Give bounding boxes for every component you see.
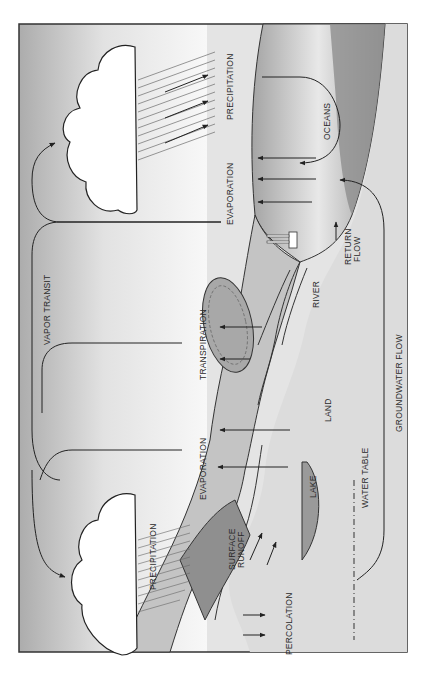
label-precipitation-ocean: PRECIPITATION bbox=[225, 53, 235, 120]
label-oceans: OCEANS bbox=[322, 103, 332, 140]
label-land: LAND bbox=[323, 399, 333, 422]
label-evaporation-ocean: EVAPORATION bbox=[225, 163, 235, 225]
label-surface-runoff-2: RUNOFF bbox=[236, 531, 246, 568]
label-vapor-transit: VAPOR TRANSIT bbox=[42, 275, 52, 345]
water-cycle-diagram: PRECIPITATION EVAPORATION OCEANS VAPOR T… bbox=[0, 0, 442, 693]
label-lake: LAKE bbox=[308, 475, 318, 498]
label-groundwater-flow: GROUNDWATER FLOW bbox=[394, 334, 404, 432]
label-river: RIVER bbox=[311, 281, 321, 308]
label-transpiration: TRANSPIRATION bbox=[198, 309, 208, 380]
label-percolation: PERCOLATION bbox=[284, 593, 294, 656]
label-return-flow-2: FLOW bbox=[352, 237, 362, 262]
label-water-table: WATER TABLE bbox=[360, 448, 370, 508]
label-evaporation-lake: EVAPORATION bbox=[198, 438, 208, 500]
label-precipitation-land: PRECIPITATION bbox=[148, 523, 158, 590]
